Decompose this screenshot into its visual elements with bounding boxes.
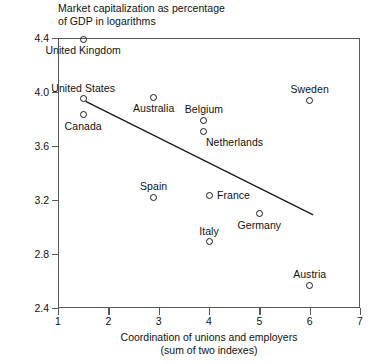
data-point-label-spain: Spain	[140, 181, 167, 192]
data-point-united-states[interactable]	[80, 95, 87, 102]
x-axis-label: Coordination of unions and employers (su…	[58, 331, 360, 357]
data-point-australia[interactable]	[150, 94, 157, 101]
data-point-germany[interactable]	[256, 210, 263, 217]
data-point-label-canada: Canada	[65, 121, 102, 132]
y-tick-label-3.6: 3.6	[9, 141, 49, 151]
data-point-label-australia: Australia	[133, 103, 174, 114]
x-tick-5	[259, 308, 260, 315]
y-tick-3.2	[52, 200, 59, 201]
data-point-label-austria: Austria	[293, 269, 326, 280]
x-tick-4	[209, 308, 210, 315]
y-tick-label-2.8: 2.8	[9, 249, 49, 259]
x-tick-label-3: 3	[144, 316, 174, 327]
data-point-label-united-states: United States	[51, 83, 115, 94]
y-tick-4.4	[52, 38, 59, 39]
x-tick-3	[159, 308, 160, 315]
data-point-label-united-kingdom: United Kingdom	[45, 45, 120, 56]
x-axis-label-line-2: (sum of two indexes)	[58, 344, 360, 357]
data-point-label-italy: Italy	[199, 226, 219, 237]
chart-title: Market capitalization as percentage of G…	[58, 2, 225, 28]
scatter-chart-figure: Market capitalization as percentage of G…	[0, 0, 379, 364]
x-tick-label-2: 2	[93, 316, 123, 327]
data-point-sweden[interactable]	[306, 97, 313, 104]
data-point-france[interactable]	[206, 192, 213, 199]
data-point-italy[interactable]	[206, 238, 213, 245]
data-point-spain[interactable]	[150, 194, 157, 201]
y-tick-2.8	[52, 254, 59, 255]
data-point-label-belgium: Belgium	[185, 104, 223, 115]
x-axis-label-line-1: Coordination of unions and employers	[58, 331, 360, 344]
x-tick-label-1: 1	[43, 316, 73, 327]
data-point-label-france: France	[217, 190, 250, 201]
y-tick-label-4.0: 4.0	[9, 87, 49, 97]
y-tick-label-2.4: 2.4	[9, 303, 49, 313]
x-tick-label-6: 6	[295, 316, 325, 327]
y-tick-label-3.2: 3.2	[9, 195, 49, 205]
chart-title-line-1: Market capitalization as percentage	[58, 2, 225, 15]
y-tick-3.6	[52, 146, 59, 147]
data-point-united-kingdom[interactable]	[80, 36, 87, 43]
x-tick-2	[108, 308, 109, 315]
x-tick-label-4: 4	[194, 316, 224, 327]
data-point-austria[interactable]	[306, 282, 313, 289]
x-tick-label-7: 7	[345, 316, 375, 327]
data-point-label-sweden: Sweden	[291, 84, 329, 95]
x-tick-label-5: 5	[244, 316, 274, 327]
x-tick-6	[310, 308, 311, 315]
x-tick-7	[360, 308, 361, 315]
data-point-label-netherlands: Netherlands	[206, 137, 263, 148]
data-point-label-germany: Germany	[238, 220, 282, 231]
y-tick-label-4.4: 4.4	[9, 33, 49, 43]
chart-title-line-2: of GDP in logarithms	[58, 15, 225, 28]
x-tick-1	[58, 308, 59, 315]
